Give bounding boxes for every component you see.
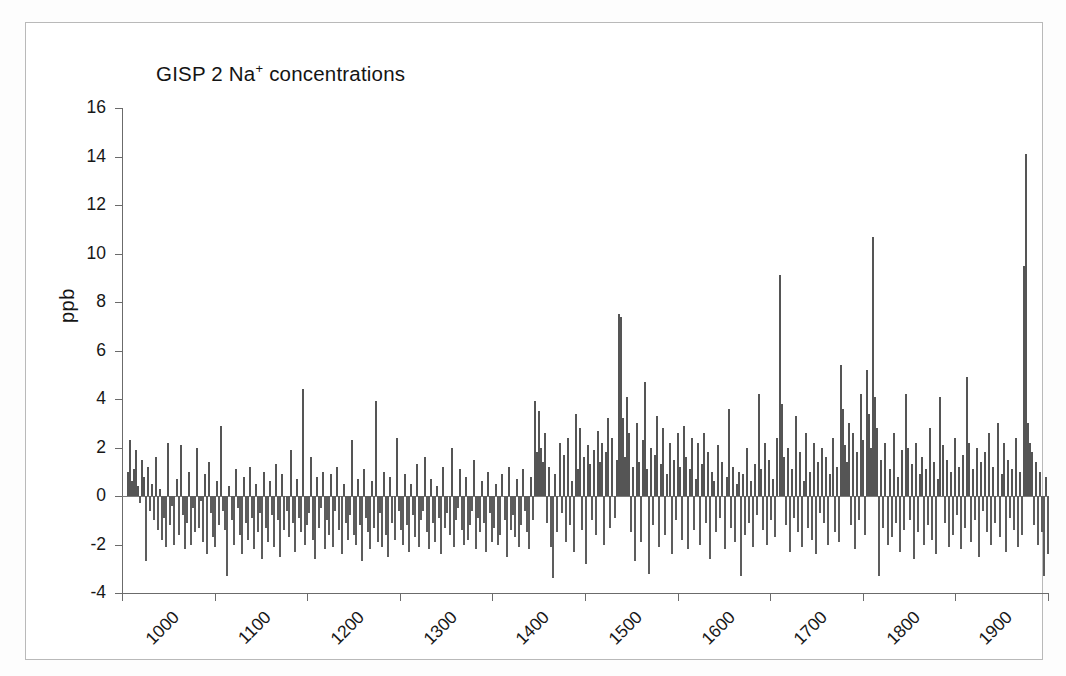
bar	[567, 438, 569, 496]
bar	[396, 438, 398, 496]
bar	[157, 496, 159, 530]
bar	[732, 467, 734, 496]
bar	[703, 433, 705, 496]
bar	[992, 467, 994, 496]
bar	[383, 472, 385, 496]
bar	[607, 418, 609, 496]
bar	[962, 455, 964, 496]
y-tick	[115, 496, 122, 497]
bar	[956, 496, 958, 515]
bar	[744, 496, 746, 535]
bar	[1037, 496, 1039, 545]
bar	[214, 496, 216, 547]
bar	[241, 496, 243, 554]
bar	[442, 467, 444, 496]
bar	[1011, 469, 1013, 496]
bar	[768, 460, 770, 496]
bar	[506, 496, 508, 557]
bar	[986, 496, 988, 532]
y-tick	[115, 108, 122, 109]
bar	[1045, 477, 1047, 496]
bar	[997, 423, 999, 496]
bar	[984, 452, 986, 496]
x-tick-label: 1400	[512, 607, 554, 649]
bar	[471, 496, 473, 511]
bar	[571, 481, 573, 496]
bar	[832, 438, 834, 496]
bar	[785, 496, 787, 525]
bar	[889, 469, 891, 496]
bar	[487, 472, 489, 496]
bar	[410, 484, 412, 496]
bar	[1035, 462, 1037, 496]
bar	[923, 496, 925, 545]
bar	[748, 496, 750, 523]
bar	[730, 496, 732, 528]
bar	[650, 448, 652, 497]
bar	[273, 496, 275, 547]
bar	[809, 472, 811, 496]
bar	[915, 443, 917, 496]
bar	[188, 472, 190, 496]
bar	[267, 496, 269, 542]
bar	[552, 496, 554, 578]
bar	[734, 496, 736, 542]
bar	[854, 496, 856, 549]
bar	[909, 496, 911, 520]
bar	[705, 496, 707, 523]
bar	[589, 464, 591, 496]
bar	[976, 448, 978, 497]
bar	[740, 496, 742, 576]
bar	[903, 496, 905, 530]
bar	[459, 469, 461, 496]
bar	[351, 440, 353, 496]
bar	[850, 496, 852, 525]
bar	[381, 496, 383, 547]
bar	[176, 479, 178, 496]
bar	[764, 443, 766, 496]
bar	[275, 464, 277, 496]
bar	[143, 477, 145, 496]
bar	[960, 496, 962, 549]
y-tick	[115, 205, 122, 206]
bar	[691, 438, 693, 496]
bar	[145, 496, 147, 561]
bar	[799, 452, 801, 496]
bar	[520, 496, 522, 525]
bar	[554, 474, 556, 496]
bar	[838, 496, 840, 542]
bar	[917, 496, 919, 532]
bar	[167, 443, 169, 496]
chart-title-tail: concentrations	[269, 62, 405, 85]
bar	[457, 496, 459, 508]
bar	[931, 496, 933, 540]
bar	[226, 496, 228, 576]
bar	[530, 477, 532, 496]
bar	[371, 481, 373, 496]
bar	[302, 389, 304, 496]
bar	[194, 496, 196, 532]
bar	[911, 464, 913, 496]
bar	[825, 457, 827, 496]
bar	[481, 481, 483, 496]
bar	[463, 496, 465, 545]
bar	[791, 469, 793, 496]
bar	[899, 496, 901, 552]
y-tick-label: 2	[52, 437, 106, 458]
bar	[263, 472, 265, 496]
bar	[901, 450, 903, 496]
y-tick-label: 10	[52, 243, 106, 264]
bar	[980, 462, 982, 496]
bar	[823, 496, 825, 523]
bar	[884, 443, 886, 496]
y-tick-label: 6	[52, 340, 106, 361]
x-tick-label: 1900	[975, 607, 1017, 649]
bar	[893, 433, 895, 496]
bar	[891, 496, 893, 537]
x-tick	[215, 593, 216, 601]
bar	[807, 496, 809, 528]
bar	[165, 496, 167, 547]
bar	[522, 469, 524, 496]
bar	[314, 496, 316, 559]
bar	[591, 496, 593, 520]
